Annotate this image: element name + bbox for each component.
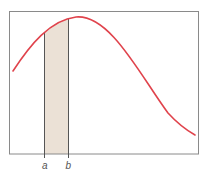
- label-b: b: [66, 160, 72, 171]
- shaded-area: [13, 17, 195, 154]
- curve: [13, 17, 195, 135]
- label-a: a: [42, 160, 48, 171]
- plot-frame: [10, 12, 199, 155]
- area-under-curve-chart: a b: [0, 0, 204, 178]
